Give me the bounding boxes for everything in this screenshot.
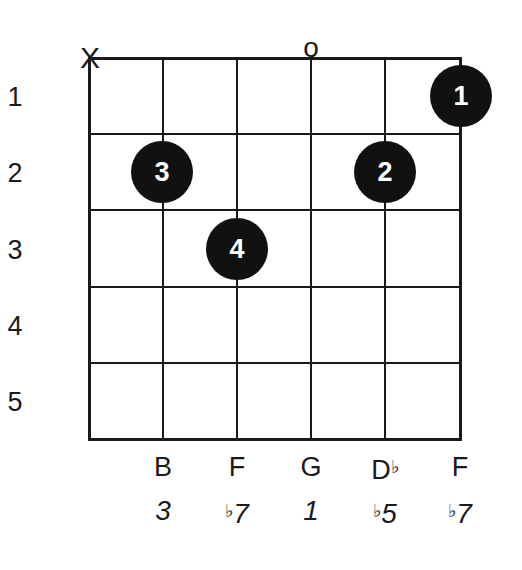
string-line-5 <box>384 57 386 440</box>
flat-symbol: ♭ <box>391 457 399 477</box>
open-string-marker: o <box>296 34 326 62</box>
string-line-4 <box>310 57 312 440</box>
interval-3: 1 <box>281 496 341 526</box>
finger-dot-3: 3 <box>131 141 193 203</box>
fret-line-3 <box>88 286 462 288</box>
fret-number-4: 4 <box>0 311 30 341</box>
note-name-5: F <box>435 452 485 482</box>
flat-symbol: ♭ <box>225 501 233 521</box>
string-line-1 <box>88 57 91 440</box>
note-name-4: D♭ <box>360 452 410 485</box>
muted-string-marker: X <box>75 44 105 72</box>
fret-line-4 <box>88 362 462 364</box>
string-line-2 <box>162 57 164 440</box>
fret-number-5: 5 <box>0 387 30 417</box>
fret-line-2 <box>88 209 462 211</box>
flat-symbol: ♭ <box>448 501 456 521</box>
interval-4: ♭5 <box>355 496 415 529</box>
fret-line-5 <box>88 438 462 441</box>
fret-number-2: 2 <box>0 158 30 188</box>
note-name-2: F <box>212 452 262 482</box>
fret-number-3: 3 <box>0 235 30 265</box>
interval-2: ♭7 <box>207 496 267 529</box>
finger-dot-4: 4 <box>206 218 268 280</box>
finger-dot-2: 2 <box>354 141 416 203</box>
note-name-1: B <box>138 452 188 482</box>
interval-5: ♭7 <box>430 496 490 529</box>
fret-line-1 <box>88 133 462 135</box>
fret-number-1: 1 <box>0 82 30 112</box>
interval-1: 3 <box>133 496 193 526</box>
nut-line <box>88 57 462 60</box>
flat-symbol: ♭ <box>373 501 381 521</box>
finger-dot-1: 1 <box>430 65 492 127</box>
note-name-3: G <box>286 452 336 482</box>
